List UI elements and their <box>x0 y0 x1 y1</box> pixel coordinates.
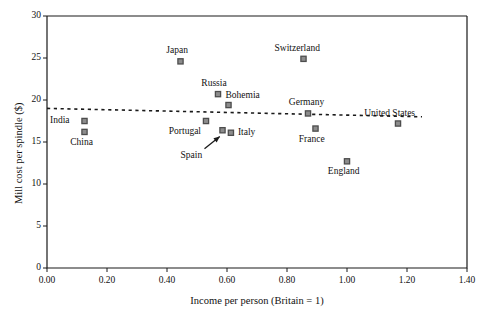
point-label: Italy <box>238 127 255 137</box>
data-point-marker <box>82 129 87 134</box>
x-axis-label: Income per person (Britain = 1) <box>147 295 367 306</box>
y-tick-label: 25 <box>5 52 41 62</box>
axis-ticks <box>43 16 467 272</box>
x-tick-label: 0.20 <box>82 275 132 285</box>
scatter-chart-figure: Mill cost per spindle ($) Income per per… <box>0 0 488 323</box>
data-point-marker <box>305 111 310 116</box>
x-tick-label: 1.40 <box>442 275 488 285</box>
data-point-marker <box>301 56 306 61</box>
y-tick-label: 15 <box>5 136 41 146</box>
y-tick-label: 5 <box>5 220 41 230</box>
axes-frame <box>47 16 467 268</box>
data-point-marker <box>215 92 220 97</box>
spain-annotation-arrow <box>205 137 220 149</box>
x-tick-label: 1.00 <box>322 275 372 285</box>
point-label: Russia <box>201 78 226 88</box>
y-tick-label: 10 <box>5 178 41 188</box>
data-point-marker <box>313 126 318 131</box>
point-label: Bohemia <box>226 90 260 100</box>
point-label: Japan <box>166 45 188 55</box>
data-point-marker <box>220 128 225 133</box>
point-label: Germany <box>289 97 324 107</box>
y-axis-label: Mill cost per spindle ($) <box>13 103 24 204</box>
x-tick-label: 0.00 <box>22 275 72 285</box>
x-tick-label: 0.60 <box>202 275 252 285</box>
x-tick-label: 0.40 <box>142 275 192 285</box>
data-point-marker <box>226 102 231 107</box>
point-label: United States <box>364 108 415 118</box>
x-tick-label: 0.80 <box>262 275 312 285</box>
y-tick-label: 30 <box>5 10 41 20</box>
point-label: England <box>328 166 360 176</box>
data-point-marker <box>395 121 400 126</box>
point-label: Switzerland <box>275 43 320 53</box>
x-tick-label: 1.20 <box>382 275 432 285</box>
data-point-marker <box>344 159 349 164</box>
point-label: China <box>70 137 93 147</box>
data-point-marker <box>228 130 233 135</box>
point-label: France <box>299 134 325 144</box>
point-label: India <box>50 115 70 125</box>
data-point-marker <box>82 118 87 123</box>
data-point-marker <box>203 118 208 123</box>
point-label: Spain <box>181 150 203 160</box>
y-tick-label: 20 <box>5 94 41 104</box>
data-point-marker <box>178 59 183 64</box>
y-tick-label: 0 <box>5 262 41 272</box>
point-label: Portugal <box>169 126 201 136</box>
